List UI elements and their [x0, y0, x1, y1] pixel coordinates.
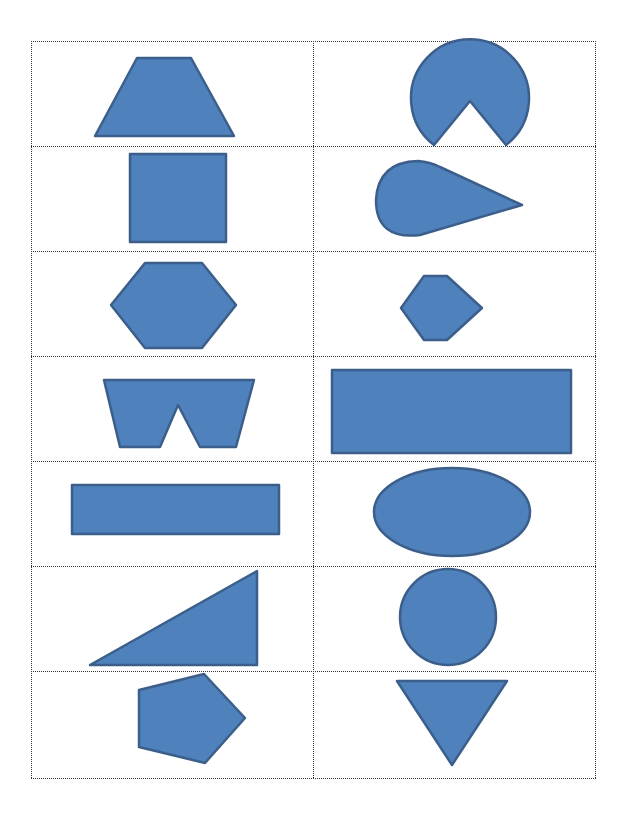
- square-icon: [130, 154, 226, 242]
- pentagon-icon: [139, 674, 245, 763]
- trapezoid-icon: [95, 58, 234, 136]
- inverted-triangle-icon: [397, 681, 507, 765]
- long-rectangle-icon: [72, 485, 279, 534]
- shape-card-sheet: [0, 0, 626, 815]
- circle-icon: [400, 569, 496, 665]
- ellipse-icon: [374, 468, 530, 556]
- wide-rectangle-icon: [332, 370, 571, 453]
- hexagon-large-icon: [111, 263, 236, 348]
- shapes-layer: [0, 0, 626, 815]
- hexagon-small-icon: [401, 276, 482, 340]
- notched-trapezoid-icon: [104, 380, 254, 447]
- teardrop-icon: [376, 161, 522, 236]
- pie-wedge-icon: [411, 39, 529, 145]
- right-triangle-icon: [90, 571, 257, 665]
